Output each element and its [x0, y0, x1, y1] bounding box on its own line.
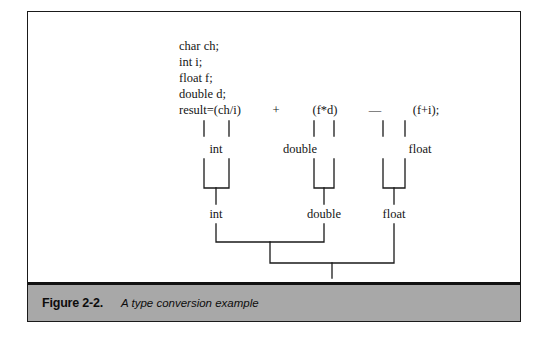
level1-node-float: float: [409, 142, 432, 156]
code-line-1: char ch;: [179, 39, 219, 53]
diagram-area: char ch; int i; float f; double d; resul…: [28, 12, 520, 282]
expression-prefix: result=(ch/i): [179, 103, 241, 117]
bracket-merge-int-double: [216, 224, 324, 242]
operator-minus: —: [368, 103, 382, 117]
type-conversion-diagram: char ch; int i; float f; double d; resul…: [28, 12, 519, 282]
code-line-2: int i;: [179, 55, 202, 69]
code-line-4: double d;: [179, 87, 226, 101]
bracket-g3: [383, 159, 405, 188]
operand-two: (f*d): [313, 103, 338, 117]
bracket-merge-final: [270, 224, 394, 263]
figure-container: char ch; int i; float f; double d; resul…: [0, 0, 550, 342]
figure-number-label: Figure 2-2.: [42, 296, 103, 310]
level1-node-int: int: [209, 142, 223, 156]
operator-plus: +: [272, 103, 279, 117]
level2-node-int: int: [209, 207, 223, 221]
operand-three: (f+i);: [413, 103, 439, 117]
level2-node-float: float: [383, 207, 406, 221]
level2-node-double: double: [307, 207, 341, 221]
figure-caption-text: A type conversion example: [121, 297, 259, 309]
figure-frame: char ch; int i; float f; double d; resul…: [27, 11, 521, 322]
bracket-g1: [204, 159, 229, 188]
caption-band: Figure 2-2. A type conversion example: [28, 285, 520, 321]
bracket-g2: [314, 159, 334, 188]
level1-node-double: double: [283, 142, 317, 156]
code-line-3: float f;: [179, 71, 213, 85]
